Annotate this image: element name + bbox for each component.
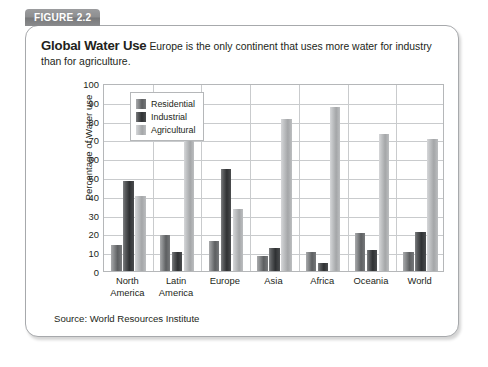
bar-industrial-world [415,232,426,271]
bar-agricultural-world [427,139,438,271]
y-axis-tick-label: 90 [89,97,99,108]
bar-agricultural-oceania [379,134,390,271]
x-axis-labels: NorthAmericaLatinAmericaEuropeAsiaAfrica… [103,275,444,303]
bar-industrial-asia [269,248,280,271]
x-axis-label-africa: Africa [298,275,347,287]
x-axis-label-europe: Europe [200,275,249,287]
category-separator [348,85,349,271]
legend-label-agricultural: Agricultural [151,125,195,135]
y-axis-tick-label: 60 [89,154,99,165]
bar-residential-africa [306,252,317,271]
legend: ResidentialIndustrialAgricultural [130,92,204,141]
y-axis-tick-label: 0 [94,267,99,278]
legend-item-residential: Residential [136,97,195,110]
figure-root: FIGURE 2.2 Global Water Use Europe is th… [0,0,488,367]
gridline [104,160,443,161]
y-axis-tick-label: 40 [89,191,99,202]
plot-area: ResidentialIndustrialAgricultural [103,84,444,272]
x-axis-label-asia: Asia [249,275,298,287]
y-axis-tick-label: 30 [89,210,99,221]
bar-agricultural-asia [281,119,292,271]
bar-residential-latin-america [160,235,171,271]
legend-swatch-industrial [136,112,146,122]
y-axis-tick-label: 100 [83,79,99,90]
x-axis-label-latin-america: LatinAmerica [152,275,201,298]
gridline [104,198,443,199]
category-separator [299,85,300,271]
legend-swatch-agricultural [136,125,146,135]
source-note: Source: World Resources Institute [54,313,199,324]
y-axis-tick-label: 80 [89,116,99,127]
x-axis-label-world: World [395,275,444,287]
x-axis-label-oceania: Oceania [347,275,396,287]
bar-industrial-latin-america [172,252,183,271]
bar-agricultural-north-america [135,196,146,271]
bar-residential-north-america [111,245,122,271]
bar-agricultural-europe [233,209,244,271]
bar-agricultural-latin-america [184,136,195,271]
legend-swatch-residential [136,99,146,109]
legend-label-industrial: Industrial [151,112,187,122]
bar-industrial-north-america [123,181,134,271]
y-axis-tick-label: 10 [89,248,99,259]
y-axis-tick-label: 20 [89,229,99,240]
legend-item-industrial: Industrial [136,110,195,123]
gridline [104,179,443,180]
legend-item-agricultural: Agricultural [136,123,195,136]
bar-industrial-africa [318,263,329,271]
gridline [104,235,443,236]
y-axis-ticks: 0102030405060708090100 [75,84,99,272]
category-separator [250,85,251,271]
bar-residential-asia [257,256,268,271]
bar-residential-world [403,252,414,271]
chart-area: Percentage of Water use 0102030405060708… [39,84,447,302]
y-axis-tick-label: 50 [89,173,99,184]
category-separator [396,85,397,271]
bar-industrial-oceania [367,250,378,271]
gridline [104,217,443,218]
figure-card: Global Water Use Europe is the only cont… [25,25,459,337]
y-axis-tick-label: 70 [89,135,99,146]
bar-residential-europe [209,241,220,271]
bar-residential-oceania [355,233,366,271]
figure-title: Global Water Use [41,38,147,53]
figure-number-tab: FIGURE 2.2 [25,9,100,26]
x-axis-label-north-america: NorthAmerica [103,275,152,298]
bar-industrial-europe [221,169,232,271]
legend-label-residential: Residential [151,99,195,109]
gridline [104,141,443,142]
figure-caption: Global Water Use Europe is the only cont… [41,38,445,69]
bar-agricultural-africa [330,107,341,271]
